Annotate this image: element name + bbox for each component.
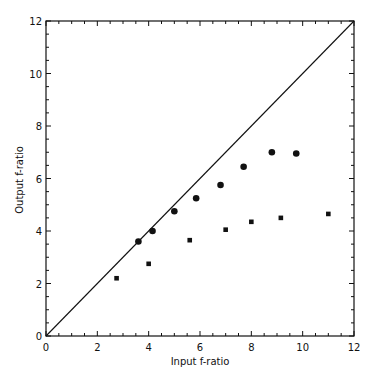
- y-tick-label: 12: [29, 16, 42, 27]
- square-marker: [326, 212, 331, 217]
- y-tick-label: 8: [36, 121, 42, 132]
- y-tick-label: 0: [36, 331, 42, 342]
- square-marker: [279, 216, 284, 221]
- y-tick-label: 2: [36, 279, 42, 290]
- x-tick-label: 10: [296, 342, 309, 353]
- circle-marker: [217, 182, 224, 189]
- circle-marker: [135, 238, 142, 245]
- x-tick-label: 6: [197, 342, 203, 353]
- circle-marker: [171, 208, 178, 215]
- data-points: [114, 149, 330, 281]
- circle-marker: [193, 195, 200, 202]
- reference-line: [46, 21, 354, 336]
- circle-marker: [240, 163, 247, 170]
- square-marker: [223, 227, 228, 232]
- square-marker: [187, 238, 192, 243]
- y-tick-label: 4: [36, 226, 42, 237]
- scatter-chart: 024681012024681012 Input f-ratio Output …: [0, 0, 371, 379]
- circle-marker: [293, 150, 300, 157]
- circle-marker: [149, 228, 156, 235]
- square-marker: [146, 262, 151, 267]
- y-axis-title: Output f-ratio: [14, 146, 25, 214]
- y-tick-label: 6: [36, 174, 42, 185]
- x-tick-label: 0: [43, 342, 49, 353]
- x-tick-label: 12: [348, 342, 361, 353]
- x-tick-label: 2: [94, 342, 100, 353]
- one-to-one-line: [46, 21, 354, 336]
- x-axis-title: Input f-ratio: [171, 356, 230, 367]
- circle-marker: [269, 149, 276, 156]
- square-marker: [249, 220, 254, 225]
- square-marker: [114, 276, 119, 281]
- y-tick-label: 10: [29, 69, 42, 80]
- x-tick-label: 4: [145, 342, 151, 353]
- x-tick-label: 8: [248, 342, 254, 353]
